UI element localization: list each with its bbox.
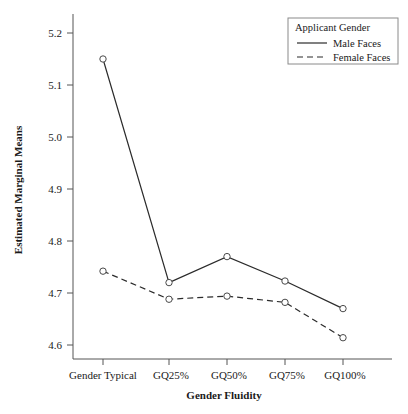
series-layer: [100, 56, 346, 341]
y-tick-label: 4.6: [48, 339, 62, 351]
legend-label-male: Male Faces: [333, 38, 381, 49]
series-line-female-faces: [103, 271, 343, 338]
x-axis-title: Gender Fluidity: [186, 389, 262, 401]
line-chart: Estimated Marginal Means 5.2 5.1 5.0 4.9…: [0, 0, 408, 414]
y-tick-label: 4.9: [48, 183, 62, 195]
x-tick-label: GQ25%: [153, 369, 189, 381]
legend: Applicant Gender Male Faces Female Faces: [288, 18, 398, 64]
y-tick-label: 4.8: [48, 235, 62, 247]
x-tick-label: Gender Typical: [69, 369, 137, 381]
y-axis-title: Estimated Marginal Means: [12, 125, 24, 254]
data-point-marker: [224, 253, 230, 259]
series-line-male-faces: [103, 59, 343, 309]
y-tick-label: 5.2: [48, 27, 62, 39]
data-point-marker: [166, 296, 172, 302]
x-tick-label: GQ75%: [269, 369, 305, 381]
data-point-marker: [100, 268, 106, 274]
data-point-marker: [282, 299, 288, 305]
data-point-marker: [340, 305, 346, 311]
y-tick-label: 4.7: [48, 287, 62, 299]
data-point-marker: [100, 56, 106, 62]
data-point-marker: [166, 279, 172, 285]
x-tick-label: GQ50%: [211, 369, 247, 381]
y-tick-label: 5.0: [48, 131, 62, 143]
legend-title: Applicant Gender: [295, 22, 370, 33]
data-point-marker: [224, 293, 230, 299]
legend-label-female: Female Faces: [333, 52, 390, 63]
y-tick-label: 5.1: [48, 79, 62, 91]
data-point-marker: [340, 335, 346, 341]
data-point-marker: [282, 278, 288, 284]
x-tick-label: GQ100%: [324, 369, 366, 381]
chart-container: Estimated Marginal Means 5.2 5.1 5.0 4.9…: [0, 0, 408, 414]
